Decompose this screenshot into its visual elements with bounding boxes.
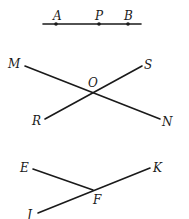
figure-intersecting-lines: M S O R N xyxy=(7,57,173,129)
label-n: N xyxy=(161,115,173,129)
label-e: E xyxy=(19,161,29,175)
label-s: S xyxy=(144,58,152,72)
label-o: O xyxy=(88,76,98,90)
figure-segment-apb: A P B xyxy=(43,9,141,26)
label-a: A xyxy=(52,9,62,23)
line-rs xyxy=(45,66,142,119)
figure-ef-jk: E K F J xyxy=(19,161,163,219)
label-p: P xyxy=(94,9,104,23)
label-b: B xyxy=(123,9,133,23)
geometry-diagram: A P B M S O R N E K F J xyxy=(0,0,189,219)
label-m: M xyxy=(7,57,21,71)
line-ef xyxy=(33,169,93,190)
label-k: K xyxy=(152,161,163,175)
label-r: R xyxy=(31,114,41,128)
label-f: F xyxy=(92,193,102,207)
label-j: J xyxy=(24,208,33,219)
